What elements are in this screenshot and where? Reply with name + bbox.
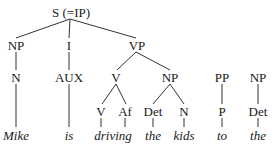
tree-edges xyxy=(0,0,275,145)
node-det-final: Det xyxy=(249,105,268,118)
node-np-object: NP xyxy=(162,71,179,84)
node-s-ip: S (=IP) xyxy=(52,6,90,19)
word-the-final: the xyxy=(250,129,266,142)
word-driving: driving xyxy=(94,129,132,142)
node-i: I xyxy=(67,39,71,52)
word-the: the xyxy=(145,129,161,142)
node-pp: PP xyxy=(215,71,229,84)
node-v-stem: V xyxy=(96,105,105,118)
node-v: V xyxy=(111,71,120,84)
node-aux: AUX xyxy=(55,71,83,84)
node-n-object: N xyxy=(179,105,188,118)
node-det: Det xyxy=(144,105,163,118)
word-to: to xyxy=(217,129,227,142)
word-kids: kids xyxy=(174,129,195,142)
node-np-final: NP xyxy=(250,71,267,84)
node-af: Af xyxy=(118,105,132,118)
node-vp: VP xyxy=(129,39,146,52)
word-mike: Mike xyxy=(3,129,29,142)
word-is: is xyxy=(65,129,74,142)
node-p: P xyxy=(218,105,225,118)
node-np-subject: NP xyxy=(8,39,25,52)
node-n: N xyxy=(11,71,20,84)
